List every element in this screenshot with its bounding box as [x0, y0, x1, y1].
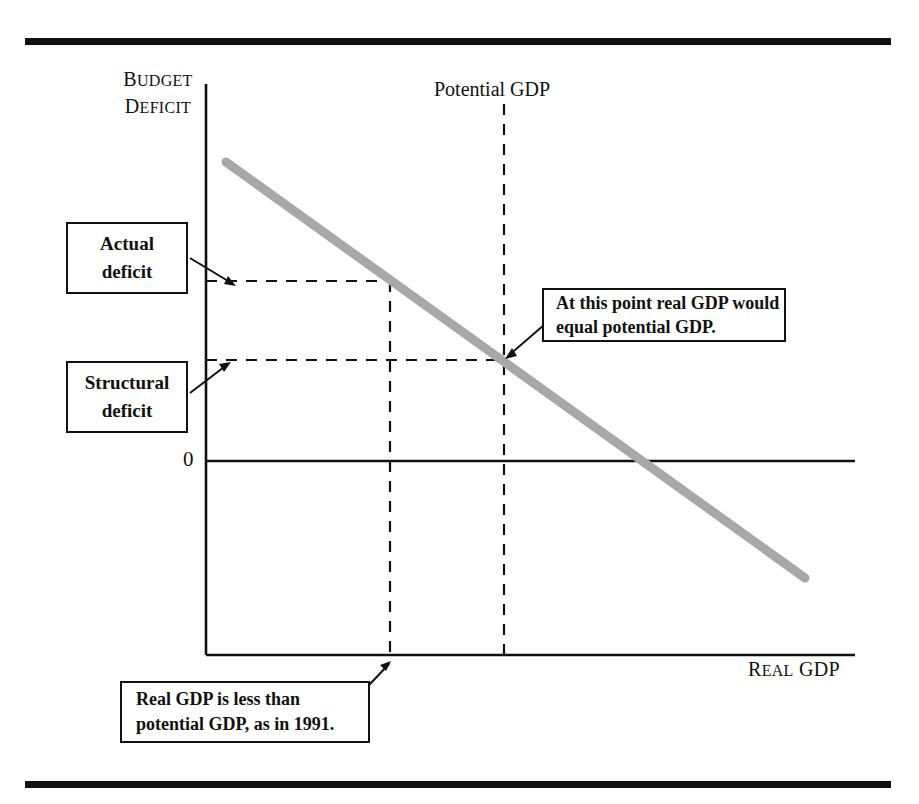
callout-intersection-line2: equal potential GDP. [556, 315, 784, 339]
callout-actual-deficit: Actual deficit [66, 222, 188, 294]
y-axis-title-line2-first: D [125, 95, 140, 117]
potential-gdp-label: Potential GDP [434, 78, 550, 101]
x-axis-title: REAL GDP [748, 658, 840, 681]
callout-intersection-note: At this point real GDP would equal poten… [542, 288, 786, 342]
budget-deficit-line [226, 162, 805, 578]
callout-actual-deficit-line1: Actual [68, 230, 186, 258]
callout-actual-deficit-line2: deficit [68, 258, 186, 286]
callout-structural-deficit-line1: Structural [68, 369, 186, 397]
y-axis-title-line1-first: B [123, 68, 137, 90]
intersection-leader [505, 325, 544, 359]
y-axis-title-line2-rest: EFICIT [140, 99, 192, 116]
x-axis-title-rest: EAL [762, 662, 794, 679]
callout-intersection-line1: At this point real GDP would [556, 291, 784, 315]
callout-real-gdp-line1: Real GDP is less than [136, 687, 368, 712]
callout-structural-deficit: Structural deficit [66, 361, 188, 433]
zero-label: 0 [183, 447, 194, 472]
x-axis-title-gdp: GDP [794, 658, 840, 680]
y-axis-title: BUDGET DEFICIT [108, 66, 208, 120]
structural-deficit-leader [190, 362, 231, 393]
x-axis-title-first: R [748, 658, 762, 680]
figure-page: BUDGET DEFICIT REAL GDP 0 Potential GDP … [0, 0, 919, 804]
callout-real-gdp-line2: potential GDP, as in 1991. [136, 712, 368, 737]
callout-real-gdp-note: Real GDP is less than potential GDP, as … [120, 681, 370, 743]
y-axis-title-line1-rest: UDGET [137, 72, 193, 89]
callout-structural-deficit-line2: deficit [68, 397, 186, 425]
